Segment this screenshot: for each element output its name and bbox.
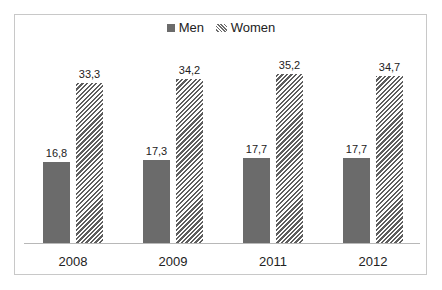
- value-label-men-2009: 17,3: [137, 145, 177, 157]
- bar-men-2012: [343, 158, 370, 243]
- bar-men-2009: [143, 160, 170, 243]
- bar-men-2011: [243, 158, 270, 243]
- value-label-women-2011: 35,2: [270, 59, 310, 71]
- bar-men-2008: [43, 162, 70, 243]
- x-tick-label-2011: 2011: [233, 254, 313, 270]
- x-tick-label-2012: 2012: [333, 254, 413, 270]
- plot-area: 16,833,3200817,334,2200917,735,2201117,7…: [0, 0, 442, 290]
- x-axis-line: [24, 243, 420, 244]
- x-tick-label-2009: 2009: [133, 254, 213, 270]
- value-label-men-2011: 17,7: [237, 143, 277, 155]
- value-label-men-2008: 16,8: [37, 147, 77, 159]
- bar-women-2008: [76, 83, 103, 243]
- value-label-women-2012: 34,7: [370, 61, 410, 73]
- value-label-men-2012: 17,7: [337, 143, 377, 155]
- value-label-women-2009: 34,2: [170, 64, 210, 76]
- bar-women-2009: [176, 79, 203, 243]
- value-label-women-2008: 33,3: [70, 68, 110, 80]
- x-tick-label-2008: 2008: [33, 254, 113, 270]
- bar-women-2011: [276, 74, 303, 243]
- bar-women-2012: [376, 76, 403, 243]
